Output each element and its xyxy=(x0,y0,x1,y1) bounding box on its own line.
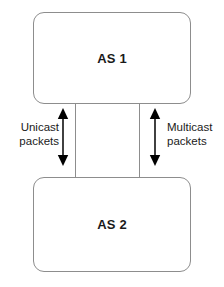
multicast-label-line-2: packets xyxy=(167,134,212,148)
unicast-packets-label: Unicast packets xyxy=(19,120,59,148)
as1-node-label: AS 1 xyxy=(97,51,127,66)
multicast-double-arrow-icon xyxy=(147,108,163,166)
unicast-label-line-1: Unicast xyxy=(21,121,59,133)
unicast-label-line-2: packets xyxy=(19,134,59,148)
connector-line-right xyxy=(139,103,140,178)
multicast-label-line-1: Multicast xyxy=(167,121,212,133)
multicast-packets-label: Multicast packets xyxy=(167,120,212,148)
as2-node-label: AS 2 xyxy=(97,217,127,232)
as2-node[interactable]: AS 2 xyxy=(33,177,191,272)
connector-line-left xyxy=(75,103,76,178)
network-diagram: AS 1 Unicast packets Multicast packets A… xyxy=(0,0,224,287)
as1-node[interactable]: AS 1 xyxy=(33,12,191,104)
